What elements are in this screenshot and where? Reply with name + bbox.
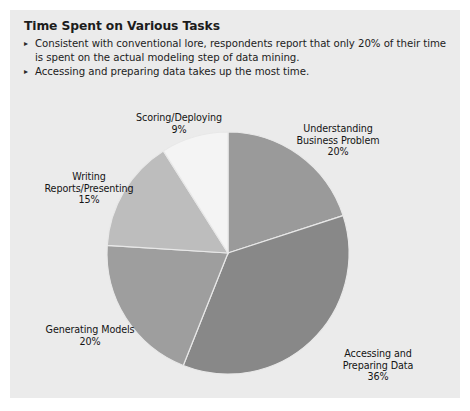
pie-label-value: 20% <box>278 146 398 158</box>
pie-label-line1: Scoring/Deploying <box>136 112 222 123</box>
slide-panel: Time Spent on Various Tasks ▸ Consistent… <box>10 10 460 398</box>
pie-label-line1: Understanding <box>303 123 372 134</box>
pie-label-generating-models: Generating Models 20% <box>20 324 160 347</box>
pie-label-line2: Reports/Presenting <box>44 183 133 194</box>
pie-label-line2: Business Problem <box>297 135 380 146</box>
pie-label-value: 36% <box>318 371 438 383</box>
pie-label-line2: Preparing Data <box>343 360 414 371</box>
pie-label-value: 15% <box>24 194 154 206</box>
pie-label-writing-reports-presenting: Writing Reports/Presenting 15% <box>24 171 154 206</box>
pie-label-value: 9% <box>114 124 244 136</box>
pie-label-scoring-deploying: Scoring/Deploying 9% <box>114 112 244 135</box>
pie-chart: Understanding Business Problem 20% Acces… <box>10 10 460 398</box>
pie-label-line1: Writing <box>72 171 106 182</box>
pie-label-accessing-and-preparing-data: Accessing and Preparing Data 36% <box>318 348 438 383</box>
pie-label-understanding-business-problem: Understanding Business Problem 20% <box>278 123 398 158</box>
pie-label-value: 20% <box>20 336 160 348</box>
pie-label-line1: Accessing and <box>344 348 411 359</box>
pie-label-line1: Generating Models <box>46 324 135 335</box>
